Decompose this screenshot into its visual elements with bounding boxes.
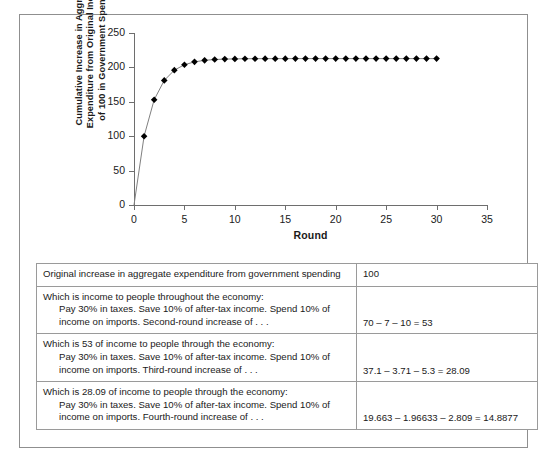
data-series <box>134 33 508 225</box>
row-lead-text: Which is income to people throughout the… <box>43 291 350 304</box>
data-point-round-27 <box>403 55 410 62</box>
data-point-round-12 <box>252 55 259 62</box>
row-lead-text: Which is 28.09 of income to people throu… <box>43 386 350 399</box>
data-point-round-8 <box>211 56 218 63</box>
table-cell-description: Which is income to people throughout the… <box>37 286 357 334</box>
y-tick-label-50: 50 <box>113 164 125 177</box>
y-axis-title: Cumulative Increase in Aggregate Expendi… <box>69 0 113 148</box>
data-point-round-29 <box>423 55 430 62</box>
data-point-round-9 <box>221 56 228 63</box>
multiplier-chart: Cumulative Increase in Aggregate Expendi… <box>19 14 528 252</box>
y-tick-label-200: 200 <box>107 60 125 73</box>
data-point-round-23 <box>363 55 370 62</box>
table-cell-description: Original increase in aggregate expenditu… <box>37 264 357 287</box>
table-cell-description: Which is 28.09 of income to people throu… <box>37 382 357 430</box>
y-tick-label-100: 100 <box>107 129 125 142</box>
data-point-round-24 <box>373 55 380 62</box>
x-axis-title: Round <box>134 229 487 241</box>
table-cell-value: 100 <box>357 264 538 287</box>
data-point-round-2 <box>151 96 158 103</box>
row-lead-text: Original increase in aggregate expenditu… <box>43 268 350 281</box>
y-tick-label-0: 0 <box>119 198 125 211</box>
table-cell-description: Which is 53 of income to people through … <box>37 334 357 382</box>
data-point-round-11 <box>242 55 249 62</box>
data-point-round-14 <box>272 55 279 62</box>
data-point-round-1 <box>141 133 148 140</box>
table-row: Original increase in aggregate expenditu… <box>37 264 538 287</box>
data-point-round-20 <box>332 55 339 62</box>
data-point-round-15 <box>282 55 289 62</box>
plot-area: 050100150200250 05101520253035 Round <box>134 33 508 225</box>
y-tick-label-150: 150 <box>107 95 125 108</box>
table-cell-value: 37.1 – 3.71 – 5.3 = 28.09 <box>357 334 538 382</box>
multiplier-rounds-table: Original increase in aggregate expenditu… <box>36 263 538 430</box>
row-detail-text: Pay 30% in taxes. Save 10% of after-tax … <box>43 303 350 328</box>
data-point-round-25 <box>383 55 390 62</box>
data-point-round-28 <box>413 55 420 62</box>
y-axis-title-line-1: Cumulative Increase in Aggregate <box>74 0 86 125</box>
y-axis-title-line-2: Expenditure from Original Increase <box>85 0 97 128</box>
data-point-round-22 <box>353 55 360 62</box>
row-lead-text: Which is 53 of income to people through … <box>43 338 350 351</box>
row-detail-text: Pay 30% in taxes. Save 10% of after-tax … <box>43 399 350 424</box>
data-point-round-6 <box>191 59 198 66</box>
table-row: Which is 53 of income to people through … <box>37 334 538 382</box>
data-point-round-16 <box>292 55 299 62</box>
data-point-round-19 <box>322 55 329 62</box>
y-tick-label-250: 250 <box>107 26 125 39</box>
data-point-round-17 <box>302 55 309 62</box>
data-point-round-13 <box>262 55 269 62</box>
data-point-round-7 <box>201 57 208 64</box>
data-point-round-21 <box>343 55 350 62</box>
table-cell-value: 19.663 – 1.96633 – 2.809 = 14.8877 <box>357 382 538 430</box>
data-point-round-10 <box>232 56 239 63</box>
table-cell-value: 70 – 7 – 10 = 53 <box>357 286 538 334</box>
table-row: Which is income to people throughout the… <box>37 286 538 334</box>
data-point-round-26 <box>393 55 400 62</box>
data-point-round-5 <box>181 61 188 68</box>
data-point-round-18 <box>312 55 319 62</box>
data-point-round-30 <box>433 55 440 62</box>
table-row: Which is 28.09 of income to people throu… <box>37 382 538 430</box>
row-detail-text: Pay 30% in taxes. Save 10% of after-tax … <box>43 351 350 376</box>
